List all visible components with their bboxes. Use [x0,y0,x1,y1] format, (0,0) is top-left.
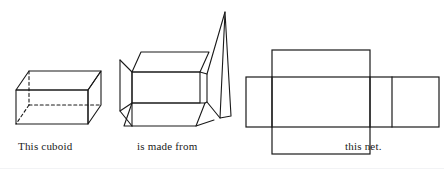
opened-box-right-flap-edge [207,102,220,118]
cuboid-hidden-depth-edge [16,105,29,124]
opened-box-front-panel [132,72,200,103]
bottom-divider [0,168,444,169]
caption-this-net: this net. [345,140,382,153]
cuboid-right-face [88,71,101,124]
opened-box-right-flap [200,72,207,103]
opened-box-raised-flap [220,12,231,118]
opened-box-right-flap-lower [196,120,214,126]
opened-box-left-flap-inner [120,60,132,111]
opened-box-bottom-flap [124,103,205,126]
net-vertical-strip [272,50,370,154]
cuboid-front-face [16,90,88,124]
opened-box [120,12,231,126]
caption-is-made-from: is made from [137,140,197,153]
opened-box-top-flap [132,52,209,72]
cuboid-net [246,50,439,154]
figure-canvas: This cuboid is made from this net. [0,0,444,176]
net-horizontal-strip [246,77,439,127]
caption-this-cuboid: This cuboid [18,140,72,153]
cuboid-solid [16,71,101,124]
